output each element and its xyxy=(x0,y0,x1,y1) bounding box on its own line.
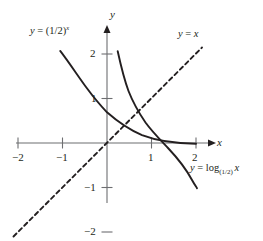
label-logarithm-arg: x xyxy=(234,162,239,173)
y-axis-arrowhead xyxy=(104,25,111,33)
label-identity-var: x xyxy=(194,28,199,39)
x-axis-arrowhead xyxy=(208,140,216,147)
math-figure: x y −2 −1 1 2 2 1 −1 −2 y = (1/2)x y = x… xyxy=(0,0,263,241)
curve-exponential xyxy=(60,51,196,144)
x-tick-label--2: −2 xyxy=(12,151,24,163)
label-logarithm-eq: = log xyxy=(195,162,220,173)
label-exponential-eq: = (1/2) xyxy=(35,25,67,36)
label-exponential-curve: y = (1/2)x xyxy=(30,25,69,36)
label-identity-line: y = x xyxy=(178,28,199,39)
x-axis-label: x xyxy=(217,136,222,148)
label-identity-eq: = xyxy=(183,28,194,39)
label-logarithm-curve: y = log(1/2)x xyxy=(190,162,239,173)
y-axis-label: y xyxy=(110,8,115,20)
x-tick-label-1: 1 xyxy=(148,151,154,163)
y-tick-label--1: −1 xyxy=(84,181,96,193)
label-exponential-exponent: x xyxy=(66,24,69,31)
y-tick-label-2: 2 xyxy=(90,47,96,59)
axes-group xyxy=(16,25,216,232)
y-tick-label--2: −2 xyxy=(84,225,96,237)
graph-canvas xyxy=(0,0,263,241)
label-logarithm-base: (1/2) xyxy=(219,168,233,176)
x-tick-label--1: −1 xyxy=(56,151,68,163)
y-tick-label-1: 1 xyxy=(91,92,97,104)
